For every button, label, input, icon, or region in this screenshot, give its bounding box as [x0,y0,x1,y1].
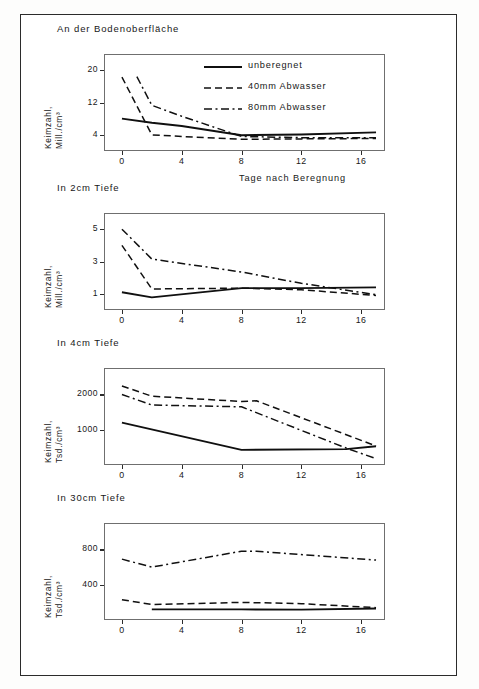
series-line-80mm-abwasser [122,551,376,567]
figure-outer-border: An der BodenoberflächeKeimzahl,Mill./cm³… [20,14,457,676]
legend-swatch-solid [204,65,242,69]
series-line-unberegnet [122,423,376,450]
legend-swatch-dashed [204,86,242,90]
series-layer [21,23,458,175]
series-line-unberegnet [122,119,376,136]
series-line-unberegnet [152,609,376,610]
legend-label: 80mm Abwasser [248,102,326,112]
legend-label: unberegnet [248,60,303,70]
series-line-40mm-abwasser [122,600,376,608]
legend-swatch-dashdot [204,107,242,111]
series-line-40mm-abwasser [122,386,376,446]
series-layer [21,492,458,644]
series-layer [21,182,458,334]
series-line-80mm-abwasser [122,229,376,294]
legend-label: 40mm Abwasser [248,81,326,91]
figure-sheet: An der BodenoberflächeKeimzahl,Mill./cm³… [0,0,479,689]
series-layer [21,337,458,489]
